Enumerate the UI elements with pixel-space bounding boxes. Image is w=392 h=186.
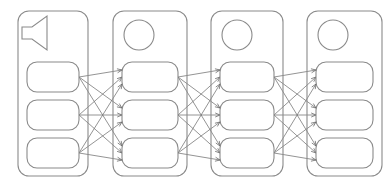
arrowhead-icon [118, 141, 122, 146]
node-l4-n2 [316, 100, 373, 130]
edge-line [274, 84, 316, 153]
connection-edges-group [79, 69, 316, 161]
edge-line [178, 77, 220, 108]
edge-line [178, 153, 220, 160]
circle-icon [318, 20, 348, 50]
edge-line [178, 77, 220, 146]
arrowhead-icon [312, 84, 316, 89]
arrowhead-icon [216, 141, 220, 146]
edge-line [79, 77, 122, 146]
edge-line [79, 115, 122, 153]
edge-line [79, 84, 122, 153]
edge-line [178, 115, 220, 153]
arrowhead-icon [118, 84, 122, 89]
node-l4-n3 [316, 138, 373, 168]
circle-icon [124, 20, 154, 50]
edge-line [79, 77, 122, 108]
network-diagram [0, 0, 392, 186]
diagram-canvas [0, 0, 392, 186]
edge-line [79, 77, 122, 115]
node-l3-n3 [220, 138, 274, 168]
edge-line [274, 122, 316, 153]
edge-line [274, 70, 316, 77]
node-l4-n1 [316, 62, 373, 92]
edge-line [178, 77, 220, 115]
node-l3-n1 [220, 62, 274, 92]
edge-line [79, 70, 122, 77]
arrowhead-icon [312, 141, 316, 146]
node-l1-n1 [27, 62, 79, 92]
edge-line [274, 77, 316, 146]
edge-line [178, 70, 220, 77]
speaker-icon [22, 16, 47, 50]
edge-line [274, 77, 316, 108]
node-l2-n3 [122, 138, 178, 168]
layer-icons-group [22, 16, 348, 50]
node-l3-n2 [220, 100, 274, 130]
node-l1-n3 [27, 138, 79, 168]
node-l1-n2 [27, 100, 79, 130]
edge-line [274, 153, 316, 160]
edge-line [79, 153, 122, 160]
node-l2-n2 [122, 100, 178, 130]
edge-line [178, 122, 220, 153]
edge-line [178, 84, 220, 153]
circle-icon [222, 20, 252, 50]
edge-line [79, 122, 122, 153]
edge-line [274, 115, 316, 153]
arrowhead-icon [216, 84, 220, 89]
node-l2-n1 [122, 62, 178, 92]
edge-line [274, 77, 316, 115]
